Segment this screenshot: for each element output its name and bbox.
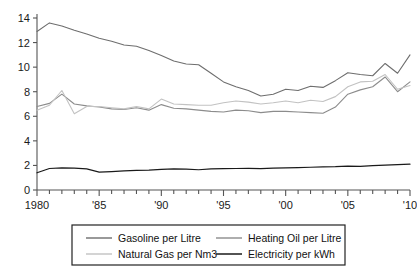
y-axis: 02468101214 [18, 12, 37, 196]
line-chart: 02468101214 1980'85'90'95'00'05'10 Gasol… [0, 0, 417, 271]
x-axis-tick-label: 1980 [25, 199, 49, 211]
x-axis-tick-label: '10 [403, 199, 417, 211]
x-axis: 1980'85'90'95'00'05'10 [25, 190, 417, 211]
x-axis-tick-label: '85 [92, 199, 106, 211]
legend-item-label: Natural Gas per Nm3 [118, 248, 217, 260]
series-lines [37, 23, 410, 173]
series-line-electricity-per-kwh [37, 164, 410, 173]
y-axis-tick-label: 4 [24, 135, 30, 147]
y-axis-tick-label: 6 [24, 110, 30, 122]
y-axis-tick-label: 2 [24, 159, 30, 171]
chart-canvas: 02468101214 1980'85'90'95'00'05'10 Gasol… [0, 0, 417, 271]
x-axis-tick-label: '05 [341, 199, 355, 211]
legend-item-label: Heating Oil per Litre [248, 232, 342, 244]
x-axis-tick-label: '95 [216, 199, 230, 211]
x-axis-tick-label: '00 [278, 199, 292, 211]
series-line-gasoline-per-litre [37, 23, 410, 96]
x-axis-tick-label: '90 [154, 199, 168, 211]
series-line-natural-gas-per-nm3 [37, 75, 410, 114]
legend-item-label: Electricity per kWh [248, 248, 335, 260]
legend-item-label: Gasoline per Litre [118, 232, 201, 244]
y-axis-tick-label: 14 [18, 12, 30, 24]
y-axis-tick-label: 8 [24, 86, 30, 98]
chart-legend: Gasoline per LitreHeating Oil per LitreN… [72, 225, 345, 265]
y-axis-tick-label: 12 [18, 37, 30, 49]
y-axis-tick-label: 0 [24, 184, 30, 196]
y-axis-tick-label: 10 [18, 61, 30, 73]
